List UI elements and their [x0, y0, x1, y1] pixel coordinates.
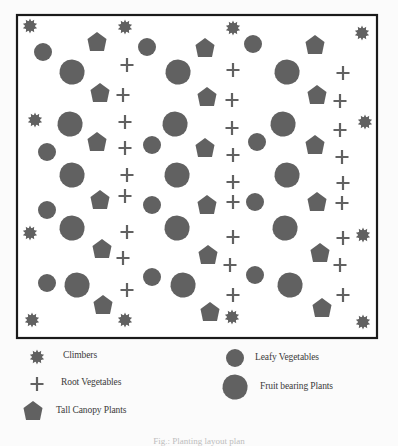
fruit-bearing-plant-icon	[278, 273, 303, 298]
leafy-vegetable-icon	[244, 35, 262, 53]
leafy-vegetable-icon	[34, 43, 52, 61]
legend-blob-icon	[223, 375, 248, 400]
leafy-vegetable-icon	[38, 201, 56, 219]
fruit-bearing-plant-icon	[171, 273, 196, 298]
legend-label-root-vegetables: Root Vegetables	[61, 378, 121, 388]
legend-circle-icon	[226, 349, 244, 367]
fruit-bearing-plant-icon	[165, 216, 190, 241]
legend-pentagon-icon	[24, 401, 43, 420]
fruit-bearing-plant-icon	[65, 273, 90, 298]
legend-label-leafy-vegetables: Leafy Vegetables	[255, 353, 319, 363]
fruit-bearing-plant-icon	[165, 163, 190, 188]
legend-label-fruit-bearing-plants: Fruit bearing Plants	[260, 382, 333, 392]
figure-caption: Fig.: Planting layout plan	[0, 437, 398, 446]
fruit-bearing-plant-icon	[60, 60, 85, 85]
legend-label-tall-canopy-plants: Tall Canopy Plants	[56, 406, 126, 416]
legend-plus-icon	[31, 377, 44, 391]
fruit-bearing-plant-icon	[58, 112, 83, 137]
fruit-bearing-plant-icon	[166, 60, 191, 85]
fruit-bearing-plant-icon	[163, 112, 188, 137]
leafy-vegetable-icon	[143, 196, 161, 214]
leafy-vegetable-icon	[246, 193, 264, 211]
legend-climber-icon	[30, 350, 44, 365]
leafy-vegetable-icon	[138, 38, 156, 56]
leafy-vegetable-icon	[248, 133, 266, 151]
fruit-bearing-plant-icon	[273, 216, 298, 241]
leafy-vegetable-icon	[38, 143, 56, 161]
leafy-vegetable-icon	[38, 274, 56, 292]
leafy-vegetable-icon	[246, 266, 264, 284]
fruit-bearing-plant-icon	[271, 112, 296, 137]
fruit-bearing-plant-icon	[275, 163, 300, 188]
fruit-bearing-plant-icon	[60, 163, 85, 188]
leafy-vegetable-icon	[143, 136, 161, 154]
legend-label-climbers: Climbers	[63, 351, 97, 361]
fruit-bearing-plant-icon	[275, 60, 300, 85]
fruit-bearing-plant-icon	[60, 216, 85, 241]
leafy-vegetable-icon	[143, 268, 161, 286]
